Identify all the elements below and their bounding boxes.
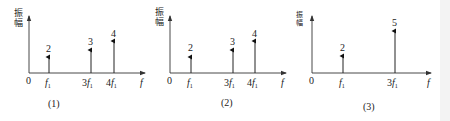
y-axis-label-bottom: 幅 bbox=[14, 17, 23, 28]
panel-caption: (3) bbox=[363, 101, 375, 113]
x-axis-label: f bbox=[427, 77, 431, 88]
amplitude-label: 4 bbox=[111, 28, 116, 39]
panel-caption: (2) bbox=[221, 97, 233, 109]
tick-label-4f1: 4f1 bbox=[106, 77, 117, 89]
amplitude-label: 2 bbox=[46, 43, 51, 54]
origin-label: 0 bbox=[309, 75, 314, 86]
panel-caption: (1) bbox=[48, 98, 60, 110]
x-axis-label: f bbox=[281, 77, 285, 88]
amplitude-label: 5 bbox=[392, 17, 397, 28]
tick-label-f1: f1 bbox=[187, 77, 193, 89]
tick-label-4f1: 4f1 bbox=[247, 77, 258, 89]
amplitude-label: 2 bbox=[188, 42, 193, 53]
spectrum-panel-3: 振 幅 0 f 2 f1 5 3f1 (3) bbox=[296, 10, 431, 113]
amplitude-label: 2 bbox=[340, 42, 345, 53]
y-axis-label-top: 振 bbox=[155, 6, 164, 17]
tick-label-f1: f1 bbox=[339, 77, 345, 89]
y-axis-label-bottom: 幅 bbox=[296, 18, 303, 27]
amplitude-label: 3 bbox=[230, 36, 235, 47]
tick-label-3f1: 3f1 bbox=[82, 77, 93, 89]
amplitude-label: 3 bbox=[88, 36, 93, 47]
y-axis-label-top: 振 bbox=[14, 7, 23, 18]
tick-label-3f1: 3f1 bbox=[224, 77, 235, 89]
origin-label: 0 bbox=[167, 75, 172, 86]
x-axis-label: f bbox=[140, 77, 144, 88]
tick-label-f1: f1 bbox=[45, 77, 51, 89]
y-axis-label-bottom: 幅 bbox=[155, 16, 164, 27]
spectrum-panel-2: 振 幅 0 f 2 f1 3 3f1 4 4f1 (2) bbox=[155, 6, 286, 109]
tick-label-3f1: 3f1 bbox=[387, 77, 398, 89]
spectrum-panel-1: 振 幅 0 f 2 f1 3 3f1 4 4f1 (1) bbox=[14, 7, 145, 110]
y-axis-label-top: 振 bbox=[296, 10, 303, 19]
origin-label: 0 bbox=[26, 75, 31, 86]
amplitude-label: 4 bbox=[252, 28, 257, 39]
